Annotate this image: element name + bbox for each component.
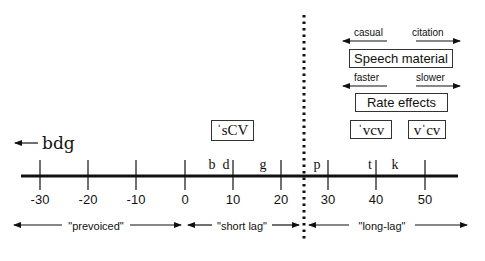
box-speech-material: Speech material: [349, 49, 453, 68]
legend-label-citation: citation: [412, 27, 444, 38]
tick-label-30: 30: [321, 192, 335, 207]
box-medial-stress-vcv: vˈcv: [408, 120, 446, 139]
consonant-p: p: [314, 157, 321, 173]
range-label-prevoiced: "prevoiced": [65, 220, 127, 232]
box-scv: ˈsCV: [211, 120, 254, 141]
box-initial-stress-vcv: ˈvcv: [350, 120, 392, 139]
consonant-t: t: [368, 157, 372, 173]
vot-continuum-diagram: -30 -20 -10 0 10 20 30 40 50 b d g p t k…: [0, 0, 485, 261]
tick-label-50: 50: [418, 192, 432, 207]
legend-label-slower: slower: [416, 72, 445, 83]
tick-label-10: 10: [226, 192, 240, 207]
legend-label-faster: faster: [354, 72, 379, 83]
range-label-long-lag: "long-lag": [356, 220, 409, 232]
tick-label-0: 0: [181, 192, 188, 207]
consonant-g: g: [260, 157, 267, 173]
bdg-label: bdg: [42, 133, 75, 153]
consonant-b: b: [209, 157, 216, 173]
range-label-short-lag: "short lag": [214, 220, 270, 232]
tick-label-40: 40: [369, 192, 383, 207]
tick-label-neg30: -30: [31, 192, 50, 207]
consonant-k: k: [392, 157, 399, 173]
tick-label-neg20: -20: [79, 192, 98, 207]
tick-label-neg10: -10: [127, 192, 146, 207]
legend-label-casual: casual: [354, 27, 383, 38]
box-rate-effects: Rate effects: [355, 93, 448, 112]
tick-label-20: 20: [274, 192, 288, 207]
consonant-d: d: [223, 157, 230, 173]
